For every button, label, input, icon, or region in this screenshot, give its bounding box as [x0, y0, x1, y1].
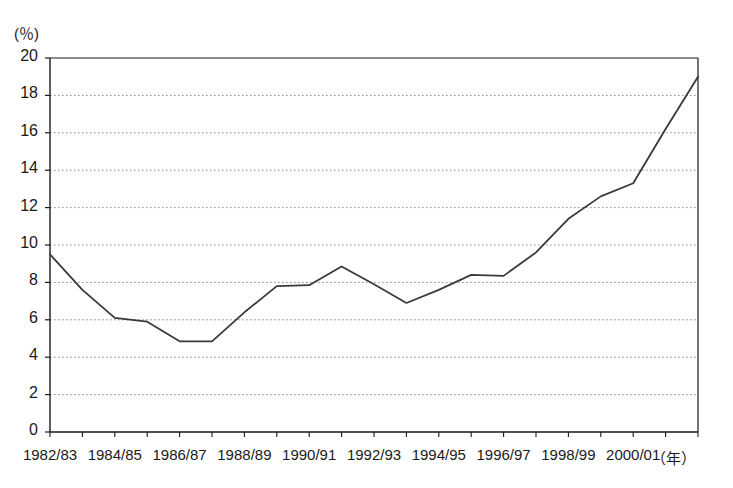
y-tick-label: 14 [4, 159, 38, 177]
y-tick-label: 8 [4, 271, 38, 289]
line-chart: (％) （年） 02468101214161820 1982/831984/85… [0, 0, 733, 488]
y-tick-label: 2 [4, 384, 38, 402]
y-tick-label: 12 [4, 197, 38, 215]
data-series-line [50, 77, 698, 342]
plot-area [0, 0, 733, 488]
x-tick-label: 1998/99 [541, 446, 595, 463]
y-tick-label: 10 [4, 234, 38, 252]
y-tick-label: 0 [4, 421, 38, 439]
y-tick-label: 4 [4, 346, 38, 364]
x-tick-label: 1996/97 [476, 446, 530, 463]
y-tick-label: 20 [4, 47, 38, 65]
x-tick-label: 1982/83 [23, 446, 77, 463]
x-tick-label: 1992/93 [347, 446, 401, 463]
y-tick-label: 16 [4, 122, 38, 140]
x-tick-label: 2000/01 [606, 446, 660, 463]
y-tick-label: 18 [4, 84, 38, 102]
y-tick-label: 6 [4, 309, 38, 327]
x-tick-label: 1994/95 [412, 446, 466, 463]
x-tick-label: 1990/91 [282, 446, 336, 463]
x-tick-label: 1986/87 [152, 446, 206, 463]
x-tick-label: 1984/85 [88, 446, 142, 463]
x-tick-label: 1988/89 [217, 446, 271, 463]
